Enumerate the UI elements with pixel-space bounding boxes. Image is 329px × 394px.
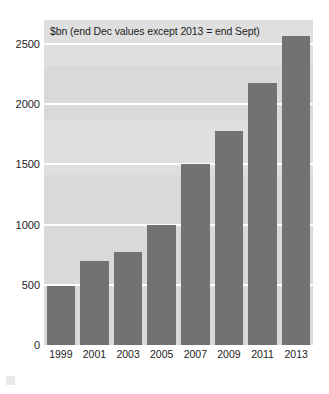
x-tick-label: 2009 [217,348,240,360]
footer-mark [6,376,15,385]
bar [248,83,276,345]
bar [215,131,243,345]
y-tick-label: 0 [2,339,40,351]
bar [47,286,75,345]
x-tick-label: 1999 [49,348,72,360]
x-tick-label: 2001 [83,348,106,360]
y-tick-label: 1000 [2,219,40,231]
bar [114,252,142,345]
bar [181,164,209,345]
chart-title: $bn (end Dec values except 2013 = end Se… [50,25,260,37]
bar [282,36,310,345]
x-tick-label: 2005 [150,348,173,360]
bar [147,225,175,345]
bar [80,261,108,345]
x-tick-label: 2003 [116,348,139,360]
y-tick-label: 1500 [2,158,40,170]
y-tick-label: 500 [2,279,40,291]
x-tick-label: 2011 [251,348,274,360]
y-tick-label: 2500 [2,38,40,50]
gridline [44,43,313,45]
x-tick-label: 2007 [184,348,207,360]
x-axis: 19992001200320052007200920112013 [44,348,313,368]
x-tick-label: 2013 [285,348,308,360]
bar-chart-figure: $bn (end Dec values except 2013 = end Se… [0,0,329,394]
plot-area: $bn (end Dec values except 2013 = end Se… [44,20,313,345]
y-tick-label: 2000 [2,98,40,110]
y-axis: 05001000150020002500 [0,0,40,394]
